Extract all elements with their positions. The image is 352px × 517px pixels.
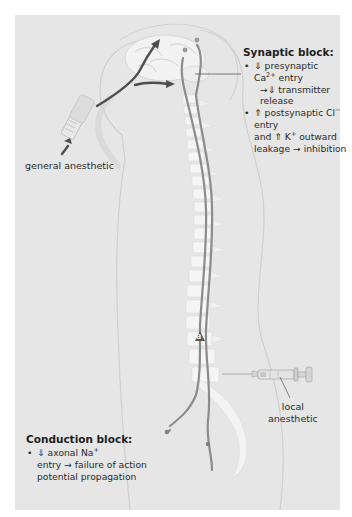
face-profile: [98, 98, 118, 166]
inhaler-icon: [61, 94, 96, 140]
synaptic-bullet-postsynaptic: ⇑ postsynaptic Cl− entry and ⇑ K+ outwar…: [243, 107, 351, 154]
up-arrow-icon: ⇑: [254, 107, 262, 118]
local-label-line2: anesthetic: [268, 413, 318, 425]
down-arrow-icon: ⇓: [254, 60, 262, 71]
syringe-icon: [222, 367, 312, 382]
synaptic-block-list: ⇓ presynaptic Ca2+ entry →⇓ transmitter …: [243, 60, 351, 154]
conduction-bullet-axonal: ⇓ axonal Na+ entry → failure of action p…: [26, 447, 196, 482]
synaptic-block-callout: Synaptic block: ⇓ presynaptic Ca2+ entry…: [243, 46, 351, 154]
nerve-top-node: [183, 48, 188, 53]
synaptic-bullet-presynaptic: ⇓ presynaptic Ca2+ entry →⇓ transmitter …: [243, 60, 351, 107]
conduction-block-list: ⇓ axonal Na+ entry → failure of action p…: [26, 447, 196, 482]
local-leader-line: [280, 377, 290, 398]
local-label-line1: local: [268, 401, 318, 413]
synaptic-block-title: Synaptic block:: [243, 46, 351, 59]
spinal-nerve-paths: [168, 45, 212, 470]
general-anesthetic-label: general anesthetic: [25, 160, 114, 172]
nerve-end-right: [206, 442, 210, 446]
up-arrow-icon: ⇑: [274, 131, 282, 142]
spine-icon: [183, 95, 247, 478]
down-arrow-icon: ⇓: [37, 447, 45, 458]
marker-label: a: [196, 332, 201, 341]
arrow-down-icon: →⇓: [260, 84, 275, 95]
conduction-block-callout: Conduction block: ⇓ axonal Na+ entry → f…: [26, 433, 196, 482]
conduction-block-title: Conduction block:: [26, 433, 196, 446]
transmitter-release-line: →⇓ transmitter release: [254, 84, 351, 108]
local-anesthetic-label: local anesthetic: [268, 401, 318, 425]
nerve-top-node-2: [195, 38, 200, 43]
